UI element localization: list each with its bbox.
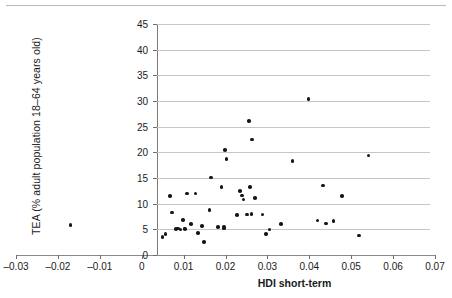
x-tick-mark <box>226 255 227 259</box>
data-point <box>279 222 283 226</box>
x-tick-mark <box>351 255 352 259</box>
data-point <box>216 225 220 229</box>
x-tick-mark <box>58 255 59 259</box>
y-tick-label: 45 <box>126 19 148 30</box>
x-tick-label: 0.04 <box>287 261 331 272</box>
y-tick-label: 25 <box>126 121 148 132</box>
x-tick-mark <box>16 255 17 259</box>
x-tick-mark <box>267 255 268 259</box>
data-point <box>307 97 311 101</box>
y-tick-mark <box>153 255 157 256</box>
data-point <box>250 212 254 216</box>
y-tick-label: 0 <box>126 250 148 261</box>
x-tick-mark <box>393 255 394 259</box>
y-axis-title: TEA (% adult population 18–64 years old) <box>30 18 42 254</box>
data-point <box>253 196 257 200</box>
x-tick-label: –0.02 <box>36 261 80 272</box>
x-tick-label: 0.05 <box>329 261 373 272</box>
x-tick-label: 0.01 <box>162 261 206 272</box>
data-point <box>250 138 254 142</box>
x-tick-label: –0.01 <box>78 261 122 272</box>
data-point <box>170 211 174 215</box>
data-point <box>196 231 200 235</box>
y-tick-label: 10 <box>126 198 148 209</box>
data-point <box>189 222 193 226</box>
x-tick-mark <box>309 255 310 259</box>
y-tick-label: 40 <box>126 44 148 55</box>
y-tick-label: 5 <box>126 224 148 235</box>
plot-area <box>157 24 430 255</box>
data-point <box>181 218 185 222</box>
y-tick-label: 20 <box>126 147 148 158</box>
data-point <box>223 148 227 152</box>
data-point <box>238 189 242 193</box>
x-tick-mark <box>142 255 143 259</box>
x-tick-label: 0.07 <box>413 261 452 272</box>
x-tick-mark <box>184 255 185 259</box>
x-tick-label: 0.03 <box>245 261 289 272</box>
x-axis-title: HDI short-term <box>157 277 432 289</box>
x-tick-label: 0 <box>120 261 164 272</box>
data-point <box>202 240 206 244</box>
x-tick-label: 0.06 <box>371 261 415 272</box>
data-point <box>248 185 252 189</box>
page-top-rule <box>6 5 446 6</box>
data-point <box>222 227 226 231</box>
x-tick-mark <box>435 255 436 259</box>
data-point <box>208 208 212 212</box>
x-tick-mark <box>100 255 101 259</box>
data-point <box>235 213 239 217</box>
x-tick-label: 0.02 <box>204 261 248 272</box>
data-point <box>200 224 204 228</box>
data-point <box>183 227 187 231</box>
y-tick-label: 35 <box>126 70 148 81</box>
y-tick-label: 30 <box>126 96 148 107</box>
x-tick-label: –0.03 <box>0 261 38 272</box>
data-point <box>340 194 344 198</box>
y-tick-label: 15 <box>126 173 148 184</box>
data-point <box>69 223 73 227</box>
data-point <box>220 185 224 189</box>
data-point <box>264 232 268 236</box>
data-point <box>168 194 172 198</box>
data-point <box>225 157 229 161</box>
data-point <box>247 119 251 123</box>
data-point <box>245 213 249 217</box>
scatter-plot-figure: TEA (% adult population 18–64 years old)… <box>0 0 452 298</box>
data-point <box>185 192 189 196</box>
